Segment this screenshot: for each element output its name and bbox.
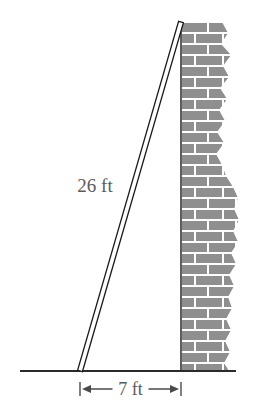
- brick: [237, 45, 254, 54]
- brick: [252, 122, 254, 131]
- brick: [182, 331, 207, 340]
- brick: [209, 243, 235, 252]
- brick: [237, 331, 254, 340]
- brick: [224, 56, 250, 65]
- brick: [209, 331, 235, 340]
- brick: [252, 78, 254, 87]
- brick: [196, 100, 222, 109]
- brick: [182, 89, 207, 98]
- brick: [196, 254, 222, 263]
- brick: [182, 342, 194, 351]
- brick: [209, 265, 235, 274]
- brick: [182, 188, 194, 197]
- brick: [196, 232, 222, 241]
- brick: [182, 166, 194, 175]
- diagram-canvas: 26 ft 7 ft: [0, 0, 254, 410]
- brick: [209, 309, 235, 318]
- brick: [209, 199, 235, 208]
- brick: [182, 199, 207, 208]
- brick: [209, 133, 235, 142]
- arrow-left-icon: [82, 385, 91, 393]
- brick: [224, 34, 250, 43]
- brick: [182, 100, 194, 109]
- brick: [196, 320, 222, 329]
- brick: [196, 342, 222, 351]
- brick: [209, 287, 235, 296]
- brick: [196, 298, 222, 307]
- brick: [182, 210, 194, 219]
- brick: [209, 353, 235, 362]
- brick: [196, 78, 222, 87]
- brick-wall: [181, 22, 254, 373]
- brick: [252, 188, 254, 197]
- brick: [196, 144, 222, 153]
- brick: [182, 309, 207, 318]
- brick: [182, 232, 194, 241]
- brick: [209, 221, 235, 230]
- brick: [237, 243, 254, 252]
- brick: [224, 188, 250, 197]
- brick: [252, 342, 254, 351]
- brick: [209, 177, 235, 186]
- brick: [209, 155, 235, 164]
- brick: [252, 144, 254, 153]
- brick: [196, 188, 222, 197]
- brick: [182, 45, 207, 54]
- brick: [182, 34, 194, 43]
- brick: [252, 364, 254, 373]
- brick: [182, 177, 207, 186]
- arrow-right-icon: [170, 385, 179, 393]
- brick: [182, 265, 207, 274]
- brick: [224, 276, 250, 285]
- brick: [252, 100, 254, 109]
- brick: [252, 254, 254, 263]
- brick: [237, 221, 254, 230]
- brick: [224, 232, 250, 241]
- brick: [182, 254, 194, 263]
- brick: [224, 166, 250, 175]
- brick: [182, 287, 207, 296]
- brick: [182, 56, 194, 65]
- brick: [224, 144, 250, 153]
- brick: [182, 298, 194, 307]
- brick: [224, 210, 250, 219]
- brick: [237, 265, 254, 274]
- brick: [237, 67, 254, 76]
- brick: [252, 166, 254, 175]
- brick: [237, 199, 254, 208]
- ladder: [78, 21, 184, 371]
- brick: [196, 122, 222, 131]
- base-distance-label: 7 ft: [118, 379, 143, 399]
- brick: [182, 221, 207, 230]
- brick: [182, 122, 194, 131]
- brick: [196, 210, 222, 219]
- brick: [196, 56, 222, 65]
- ladder-beam: [78, 21, 184, 371]
- brick: [209, 45, 235, 54]
- brick: [252, 232, 254, 241]
- brick: [182, 155, 207, 164]
- ladder-wall-diagram: 26 ft 7 ft: [0, 0, 254, 410]
- brick: [237, 133, 254, 142]
- brick: [252, 276, 254, 285]
- brick: [237, 177, 254, 186]
- brick: [182, 276, 194, 285]
- brick: [224, 78, 250, 87]
- brick: [224, 254, 250, 263]
- brick: [196, 34, 222, 43]
- ladder-length-label: 26 ft: [77, 175, 113, 196]
- brick: [209, 111, 235, 120]
- brick: [252, 298, 254, 307]
- brick: [182, 67, 207, 76]
- brick: [182, 320, 194, 329]
- base-dimension: 7 ft: [80, 379, 181, 399]
- brick: [224, 298, 250, 307]
- brick: [182, 78, 194, 87]
- brick: [252, 320, 254, 329]
- brick: [224, 342, 250, 351]
- brick: [252, 56, 254, 65]
- brick: [224, 320, 250, 329]
- brick: [224, 122, 250, 131]
- brick: [182, 111, 207, 120]
- brick: [182, 243, 207, 252]
